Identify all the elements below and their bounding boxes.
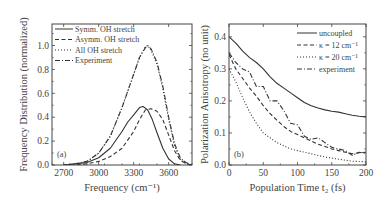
panel-a-frequency-distribution: 27003000330036000.00.20.40.60.81.0Symm. … <box>18 17 192 194</box>
figure: 27003000330036000.00.20.40.60.81.0Symm. … <box>0 0 389 210</box>
legend-label: All OH stretch <box>75 46 122 55</box>
x-tick-label: 100 <box>290 168 305 178</box>
x-tick-label: 3300 <box>124 168 143 178</box>
x-tick-label: 200 <box>359 168 374 178</box>
panel-b-polarization-anisotropy: 0501001502000.00.10.20.30.4uncoupledκ = … <box>199 24 373 194</box>
series-line-solid <box>64 106 181 165</box>
y-axis-label: Frequency Distribution (normalized) <box>18 17 30 172</box>
y-tick-label: 1.0 <box>37 41 49 51</box>
panel-label: (b) <box>234 149 244 159</box>
panel-label: (a) <box>57 149 67 159</box>
series-line-dotted <box>229 69 366 162</box>
x-tick-label: 150 <box>325 168 340 178</box>
y-tick-label: 0.0 <box>37 160 49 170</box>
legend: Symm. OH stretchAsymm. OH stretchAll OH … <box>55 25 139 66</box>
x-axis-label: Population Time t₂ (fs) <box>249 182 346 194</box>
legend-label: Asymm. OH stretch <box>75 35 139 44</box>
y-tick-label: 0.2 <box>214 96 226 106</box>
y-tick-label: 0.4 <box>37 112 49 122</box>
legend-label: κ = 12 cm⁻¹ <box>319 41 359 50</box>
y-tick-label: 0.6 <box>37 89 49 99</box>
legend-label: Experiment <box>75 56 113 65</box>
x-tick-label: 3600 <box>159 168 178 178</box>
legend-label: uncoupled <box>319 29 352 38</box>
x-tick-label: 0 <box>227 168 232 178</box>
x-axis-label: Frequency (cm⁻¹) <box>84 182 160 194</box>
legend-label: κ = 20 cm⁻¹ <box>319 53 359 62</box>
x-tick-label: 2700 <box>54 168 73 178</box>
legend: uncoupledκ = 12 cm⁻¹κ = 20 cm⁻¹experimen… <box>297 29 359 74</box>
x-tick-label: 50 <box>259 168 269 178</box>
y-tick-label: 0.2 <box>37 136 49 146</box>
legend-label: Symm. OH stretch <box>75 25 135 34</box>
x-tick-label: 3000 <box>89 168 108 178</box>
y-tick-label: 0.4 <box>214 32 226 42</box>
y-tick-label: 0.1 <box>214 128 226 138</box>
y-axis-label: Polarization Anisotropy (no unit) <box>199 24 211 164</box>
y-tick-label: 0.8 <box>37 65 49 75</box>
y-tick-label: 0.3 <box>214 64 226 74</box>
legend-label: experiment <box>319 65 356 74</box>
y-tick-label: 0.0 <box>214 160 226 170</box>
